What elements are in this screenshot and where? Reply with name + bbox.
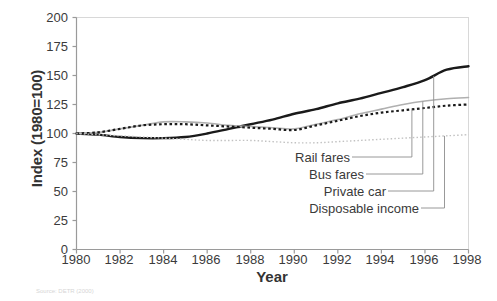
line-chart-figure: Index (1980=100) 200 175 150 125 100 75 … [0, 0, 497, 301]
source-note: Source: DETR (2000) [36, 288, 94, 294]
series-layer [77, 66, 469, 143]
annotation-label-bus-fares: Bus fares [200, 167, 364, 182]
x-tick-marks [77, 250, 469, 254]
annotation-label-private-car: Private car [200, 184, 386, 199]
annotation-label-rail-fares: Rail fares [200, 150, 350, 165]
series-line-bus-fares [77, 98, 469, 134]
annotation-label-disposable-income: Disposable income [200, 201, 419, 216]
leader-line-disposable-income [421, 136, 445, 208]
